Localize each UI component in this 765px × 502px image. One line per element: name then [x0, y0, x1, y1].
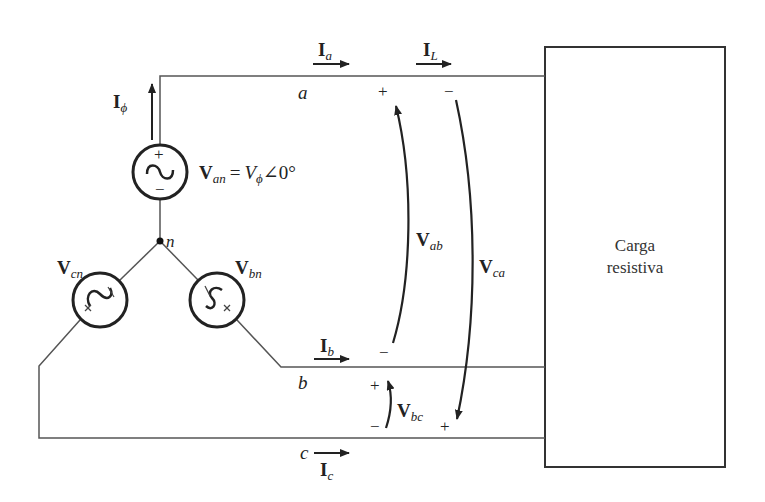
source-an-plus: + [154, 146, 164, 163]
ac-source-bn-icon [190, 273, 244, 327]
load-label-line2: resistiva [545, 257, 725, 279]
voltage-ab-label: Vab [416, 230, 443, 252]
voltage-bc-minus: − [370, 418, 380, 435]
current-c-label: Ic [320, 460, 333, 482]
voltage-ca-plus: + [440, 418, 450, 435]
neutral-node-label: n [166, 233, 175, 250]
line-b-wire [237, 320, 545, 367]
neutral-node-dot [157, 238, 164, 245]
voltage-bc-plus: + [370, 377, 380, 394]
phase-current-label: Iϕ [113, 92, 127, 114]
ac-source-cn-icon [73, 273, 127, 327]
source-an-equation: Van = Vϕ∠0° [199, 163, 296, 185]
load-label-line1: Carga [545, 235, 725, 257]
line-a-wire [160, 76, 545, 144]
neutral-to-cn-wire [120, 241, 160, 280]
current-a-label: Ia [318, 40, 332, 62]
load-label: Carga resistiva [545, 235, 725, 279]
voltage-bc-arrow-icon [386, 381, 391, 428]
voltage-bc-label: Vbc [397, 401, 423, 423]
node-b-label: b [298, 373, 308, 392]
voltage-ca-arrow-icon [456, 100, 473, 419]
voltage-ca-minus: − [444, 83, 454, 100]
voltage-ca-label: Vca [479, 257, 505, 279]
source-cn-label: Vcn [57, 258, 83, 280]
node-a-label: a [298, 83, 308, 102]
node-c-label: c [300, 443, 308, 462]
voltage-ab-arrow-icon [393, 106, 408, 343]
voltage-ab-plus: + [378, 83, 388, 100]
three-phase-circuit-diagram: Iϕ + − Van = Vϕ∠0° n Vcn Vbn Ia IL a + −… [0, 0, 765, 502]
current-b-label: Ib [320, 336, 334, 358]
voltage-ab-minus: − [379, 344, 389, 361]
source-bn-label: Vbn [235, 258, 262, 280]
line-current-label: IL [423, 40, 438, 62]
source-an-minus: − [155, 181, 165, 198]
